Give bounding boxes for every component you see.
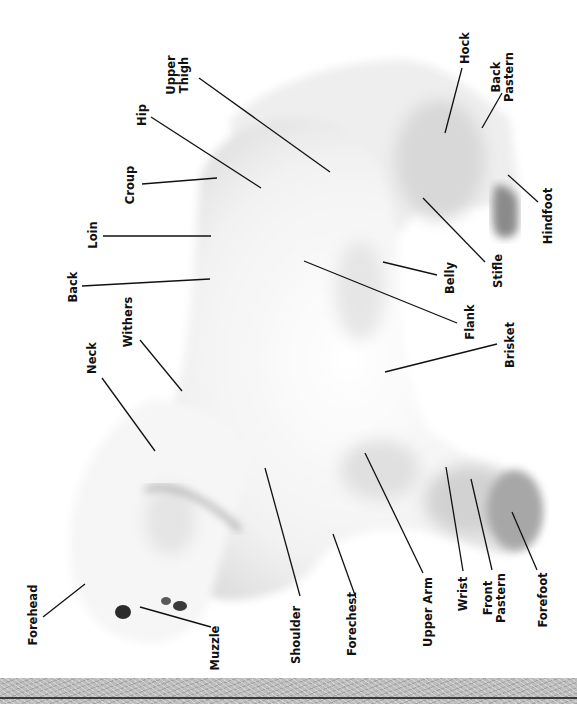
label-shoulder: Shoulder <box>290 606 303 664</box>
label-forehead: Forehead <box>27 585 40 646</box>
mouth <box>173 601 187 611</box>
leader-line-back <box>82 279 210 286</box>
label-belly: Belly <box>444 262 457 294</box>
label-back-pastern: Back Pastern <box>490 52 515 102</box>
label-neck: Neck <box>86 342 99 374</box>
label-upper-thigh: Upper Thigh <box>165 55 190 94</box>
bottom-rule <box>0 697 577 699</box>
label-wrist: Wrist <box>457 577 470 611</box>
label-loin: Loin <box>87 221 100 248</box>
label-muzzle: Muzzle <box>209 626 222 671</box>
label-front-pastern: Front Pastern <box>482 573 507 623</box>
label-withers: Withers <box>122 297 135 348</box>
label-upper-arm: Upper Arm <box>422 577 435 647</box>
label-flank: Flank <box>464 304 477 339</box>
bottom-texture-band <box>0 678 577 704</box>
label-croup: Croup <box>124 166 137 204</box>
label-hip: Hip <box>136 104 149 126</box>
label-stifle: Stifle <box>492 254 505 288</box>
dog-anatomy-diagram: Upper ThighHipCroupLoinBackWithersNeckFo… <box>0 0 577 704</box>
label-hock: Hock <box>459 32 472 64</box>
front-paw <box>487 470 543 550</box>
label-forechest: Forechest <box>346 592 359 656</box>
label-forefoot: Forefoot <box>537 572 550 627</box>
label-brisket: Brisket <box>504 322 517 368</box>
nose <box>115 605 131 619</box>
leader-line-forechest <box>333 534 356 598</box>
label-hindfoot: Hindfoot <box>542 188 555 244</box>
label-back: Back <box>67 272 80 303</box>
leader-line-withers <box>140 340 182 391</box>
leader-line-forehead <box>43 584 85 617</box>
